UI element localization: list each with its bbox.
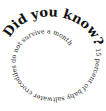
spiral-text: Did you know? 15 percent of baby saltwat… — [0, 4, 106, 103]
spiral-body: 15 percent of baby saltwater crocodiles … — [9, 27, 102, 103]
spiral-text-graphic: Did you know? 15 percent of baby saltwat… — [0, 0, 106, 111]
spiral-heading: Did you know? — [0, 4, 106, 48]
